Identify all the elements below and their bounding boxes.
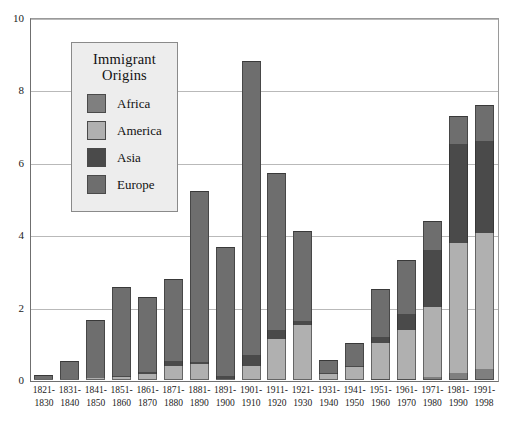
y-axis: 0246810 <box>0 0 30 425</box>
bar-stack[interactable] <box>267 173 286 380</box>
bar-segment-europe[interactable] <box>242 61 261 354</box>
bar-segment-america[interactable] <box>34 379 53 380</box>
bar-segment-africa[interactable] <box>397 379 416 380</box>
bar-segment-europe[interactable] <box>371 289 390 337</box>
bar-segment-america[interactable] <box>267 339 286 380</box>
legend-label-america: America <box>117 124 162 137</box>
y-axis-tick-label: 0 <box>0 375 24 386</box>
bar-segment-asia[interactable] <box>475 141 494 233</box>
bar-stack[interactable] <box>86 320 105 380</box>
bar-stack[interactable] <box>475 105 494 380</box>
bar-segment-asia[interactable] <box>449 144 468 243</box>
bar-stack[interactable] <box>371 289 390 380</box>
bar-stack[interactable] <box>164 279 183 380</box>
bar-segment-america[interactable] <box>138 374 157 380</box>
legend-items: AfricaAmericaAsiaEurope <box>72 90 177 198</box>
bar-segment-asia[interactable] <box>397 314 416 330</box>
y-axis-tick-label: 2 <box>0 302 24 313</box>
bar-segment-europe[interactable] <box>293 231 312 321</box>
bar-segment-europe[interactable] <box>216 247 235 376</box>
bar-stack[interactable] <box>423 221 442 380</box>
bar-segment-europe[interactable] <box>475 105 494 141</box>
bar-stack[interactable] <box>319 360 338 380</box>
bar-stack[interactable] <box>449 116 468 380</box>
bar-segment-africa[interactable] <box>371 379 390 380</box>
immigrant-origins-stacked-bar-chart: 0246810 1821-18301831-18401841-18501851-… <box>0 0 513 425</box>
bar-stack[interactable] <box>34 375 53 380</box>
bar-segment-europe[interactable] <box>345 343 364 365</box>
legend-label-europe: Europe <box>117 178 155 191</box>
bar-stack[interactable] <box>112 287 131 380</box>
bar-segment-america[interactable] <box>449 243 468 373</box>
bar-segment-asia[interactable] <box>242 355 261 367</box>
bar-segment-america[interactable] <box>164 366 183 380</box>
bar-stack[interactable] <box>345 343 364 380</box>
bar-stack[interactable] <box>397 260 416 380</box>
bar-segment-america[interactable] <box>60 379 79 380</box>
legend-label-asia: Asia <box>117 151 141 164</box>
legend-title: Immigrant Origins <box>72 43 177 83</box>
bar-segment-europe[interactable] <box>397 260 416 314</box>
bar-segment-america[interactable] <box>293 325 312 380</box>
bar-segment-america[interactable] <box>319 374 338 380</box>
bar-segment-africa[interactable] <box>423 377 442 380</box>
bar-segment-asia[interactable] <box>423 250 442 308</box>
bar-segment-america[interactable] <box>475 233 494 369</box>
legend-title-line-1: Immigrant <box>72 51 177 67</box>
y-axis-tick-label: 10 <box>0 13 24 24</box>
bar-segment-america[interactable] <box>371 343 390 379</box>
legend-item-america[interactable]: America <box>72 117 177 144</box>
bar-segment-europe[interactable] <box>60 361 79 379</box>
bar-segment-america[interactable] <box>423 307 442 377</box>
bar-segment-america[interactable] <box>190 364 209 380</box>
legend-swatch-asia <box>87 148 106 167</box>
legend-item-asia[interactable]: Asia <box>72 144 177 171</box>
bar-segment-europe[interactable] <box>190 191 209 363</box>
bar-segment-africa[interactable] <box>449 373 468 380</box>
bar-segment-asia[interactable] <box>267 330 286 339</box>
bar-segment-europe[interactable] <box>319 360 338 373</box>
x-axis-tick-label-line-1: 1991- <box>465 384 503 397</box>
bar-segment-europe[interactable] <box>449 116 468 144</box>
legend-title-line-2: Origins <box>72 67 177 83</box>
legend-swatch-europe <box>87 175 106 194</box>
legend-swatch-america <box>87 121 106 140</box>
bar-segment-america[interactable] <box>397 330 416 379</box>
bar-segment-america[interactable] <box>242 366 261 380</box>
bar-segment-america[interactable] <box>112 377 131 380</box>
legend-label-africa: Africa <box>117 97 150 110</box>
y-axis-tick-label: 6 <box>0 157 24 168</box>
bar-stack[interactable] <box>190 191 209 380</box>
bar-stack[interactable] <box>138 297 157 380</box>
legend-item-europe[interactable]: Europe <box>72 171 177 198</box>
bar-segment-europe[interactable] <box>164 279 183 361</box>
bar-segment-europe[interactable] <box>423 221 442 250</box>
bar-stack[interactable] <box>242 61 261 380</box>
bar-segment-europe[interactable] <box>138 297 157 371</box>
bar-segment-america[interactable] <box>86 378 105 380</box>
legend-item-africa[interactable]: Africa <box>72 90 177 117</box>
x-axis-tick-label-line-2: 1998 <box>465 397 503 410</box>
bar-segment-europe[interactable] <box>267 173 286 329</box>
bar-segment-america[interactable] <box>345 367 364 380</box>
bar-stack[interactable] <box>216 247 235 380</box>
y-axis-tick-label: 4 <box>0 230 24 241</box>
bar-stack[interactable] <box>293 231 312 380</box>
bar-segment-europe[interactable] <box>112 287 131 376</box>
bar-segment-america[interactable] <box>216 379 235 380</box>
legend: Immigrant Origins AfricaAmericaAsiaEurop… <box>71 42 178 212</box>
y-axis-tick-label: 8 <box>0 85 24 96</box>
bar-stack[interactable] <box>60 361 79 380</box>
x-axis: 1821-18301831-18401841-18501851-18601861… <box>31 384 497 424</box>
x-axis-tick-label: 1991-1998 <box>465 384 503 410</box>
bar-segment-europe[interactable] <box>86 320 105 378</box>
legend-swatch-africa <box>87 94 106 113</box>
bar-segment-africa[interactable] <box>475 369 494 380</box>
